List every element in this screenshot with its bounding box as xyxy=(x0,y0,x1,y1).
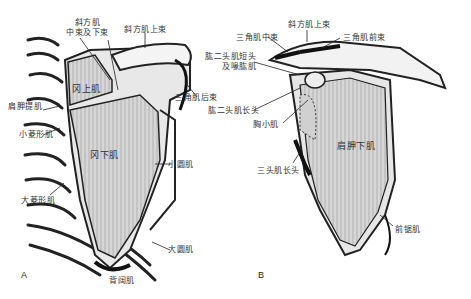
label-trapezius-upper-b: 斜方肌上束 xyxy=(288,20,331,30)
label-teres-major: 大圆肌 xyxy=(168,245,194,255)
panel-letter-b: B xyxy=(258,270,264,280)
label-deltoid-posterior: 三角肌后束 xyxy=(175,93,218,103)
label-line-1: 肱二头肌短头 xyxy=(205,52,256,62)
label-trapezius-mid-lower: 斜方肌 中束及下束 xyxy=(66,18,109,38)
scapula-posterior xyxy=(65,44,191,270)
label-line-2: 中束及下束 xyxy=(66,28,109,38)
label-rhomboid-minor: 小菱形肌 xyxy=(19,130,53,140)
label-serratus-anterior: 前锯肌 xyxy=(395,225,421,235)
label-deltoid-anterior: 三角肌前束 xyxy=(343,33,386,43)
label-infraspinatus: 冈下肌 xyxy=(90,150,119,160)
infraspinatus-shape xyxy=(70,95,160,258)
label-biceps-long: 肱二头肌长头 xyxy=(208,106,259,116)
anatomy-illustration xyxy=(0,0,471,299)
label-teres-minor: 小圆肌 xyxy=(168,160,194,170)
label-line-1: 斜方肌 xyxy=(66,18,109,28)
label-rhomboid-major: 大菱形肌 xyxy=(21,196,55,206)
label-biceps-short-coracobrachialis: 肱二头肌短头 及喙肱肌 xyxy=(205,52,256,72)
label-triceps-long: 三头肌长头 xyxy=(257,166,300,176)
label-trapezius-upper-a: 斜方肌上束 xyxy=(124,25,167,35)
label-line-2: 及喙肱肌 xyxy=(205,62,256,72)
label-supraspinatus: 冈上肌 xyxy=(72,84,101,94)
label-subscapularis: 肩胛下肌 xyxy=(337,141,375,151)
label-levator-scapulae: 肩胛提肌 xyxy=(8,102,42,112)
label-latissimus-dorsi: 背阔肌 xyxy=(109,276,135,286)
label-pectoralis-minor: 胸小肌 xyxy=(253,120,279,130)
label-deltoid-middle: 三角肌中束 xyxy=(236,33,279,43)
panel-letter-a: A xyxy=(21,270,27,280)
